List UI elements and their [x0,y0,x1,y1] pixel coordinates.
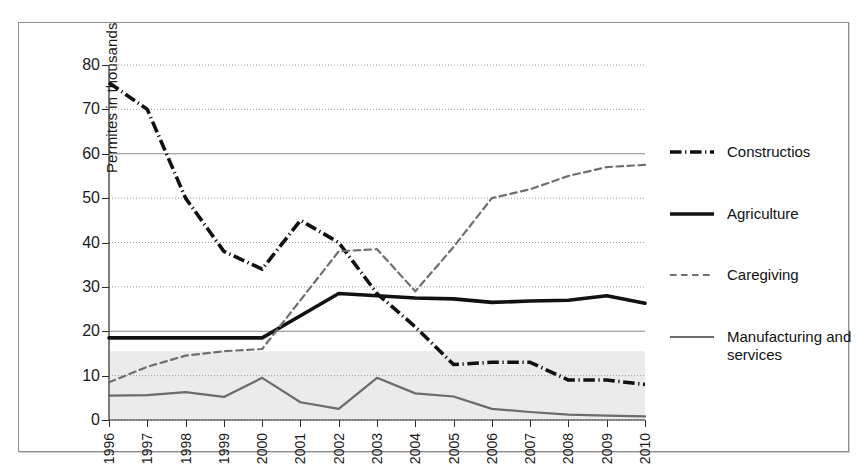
y-tick-label: 0 [91,412,100,428]
x-tick-mark [415,420,416,427]
y-tick-mark [102,243,109,244]
y-tick-label: 40 [82,235,100,251]
x-tick-label: 2003 [370,433,384,464]
x-tick-label: 2010 [638,433,652,464]
y-tick-mark [102,331,109,332]
legend-swatch-2-icon [669,267,715,283]
x-tick-mark [186,420,187,427]
y-tick-label: 20 [82,323,100,339]
legend-label: Agriculture [727,205,799,223]
chart-canvas [109,65,645,420]
x-tick-label: 2004 [408,433,422,464]
x-tick-label: 2005 [447,433,461,464]
x-tick-label: 1997 [140,433,154,464]
x-tick-mark [262,420,263,427]
x-tick-label: 1996 [102,433,116,464]
y-tick-mark [102,109,109,110]
legend-item[interactable]: Manufacturing and services [669,328,859,363]
y-tick-mark [102,65,109,66]
x-tick-mark [492,420,493,427]
x-tick-label: 1999 [217,433,231,464]
legend-swatch-3-icon [669,329,715,345]
y-tick-mark [102,198,109,199]
x-tick-mark [454,420,455,427]
legend-swatch-1-icon [669,206,715,222]
legend-label: Caregiving [727,266,799,284]
legend-item[interactable]: Constructios [669,143,859,161]
y-tick-mark [102,420,109,421]
x-tick-label: 2008 [561,433,575,464]
x-tick-mark [147,420,148,427]
y-tick-mark [102,154,109,155]
y-tick-label: 50 [82,190,100,206]
y-tick-label: 80 [82,57,100,73]
y-tick-mark [102,287,109,288]
y-tick-label: 30 [82,279,100,295]
x-tick-label: 1998 [179,433,193,464]
x-tick-label: 2001 [293,433,307,464]
x-tick-label: 2000 [255,433,269,464]
series-line-2 [109,165,645,382]
y-tick-label: 10 [82,368,100,384]
plot-area: Permites in thousands 01020304050607080 … [109,65,645,420]
x-tick-mark [109,420,110,427]
x-tick-mark [339,420,340,427]
shaded-band [109,351,645,420]
y-tick-label: 60 [82,146,100,162]
chart-frame: Permites in thousands 01020304050607080 … [18,22,849,452]
x-tick-mark [530,420,531,427]
x-tick-label: 2009 [600,433,614,464]
legend-label: Constructios [727,143,810,161]
x-tick-mark [645,420,646,427]
x-tick-mark [568,420,569,427]
x-tick-mark [377,420,378,427]
x-tick-mark [300,420,301,427]
legend-label: Manufacturing and services [727,328,859,363]
legend-swatch-0-icon [669,144,715,160]
y-tick-mark [102,376,109,377]
x-tick-label: 2006 [485,433,499,464]
x-tick-label: 2002 [332,433,346,464]
x-tick-mark [224,420,225,427]
legend-item[interactable]: Caregiving [669,266,859,284]
chart-page: Permites in thousands 01020304050607080 … [0,0,867,474]
y-tick-label: 70 [82,101,100,117]
legend-item[interactable]: Agriculture [669,205,859,223]
x-tick-label: 2007 [523,433,537,464]
x-tick-mark [607,420,608,427]
chart-legend: ConstructiosAgricultureCaregivingManufac… [669,143,859,363]
